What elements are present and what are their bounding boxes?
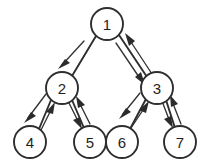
- node-6[interactable]: 6: [106, 126, 138, 158]
- node-3[interactable]: 3: [141, 72, 173, 104]
- node-2[interactable]: 2: [46, 72, 78, 104]
- arrow-1-to-2: [58, 41, 84, 69]
- edge-1-2: [72, 36, 96, 76]
- arrowhead-down-left: [24, 112, 36, 123]
- node-group: 1 2 3 4 5 6: [14, 8, 196, 158]
- node-5[interactable]: 5: [74, 126, 106, 158]
- tree-diagram: 1 2 3 4 5 6: [0, 0, 205, 167]
- arrowhead-down-left: [58, 59, 70, 69]
- node-2-label: 2: [58, 80, 66, 97]
- tree-diagram-canvas: 1 2 3 4 5 6: [0, 0, 205, 167]
- node-3-label: 3: [153, 80, 161, 97]
- node-7[interactable]: 7: [164, 126, 196, 158]
- node-6-label: 6: [118, 134, 126, 151]
- arrowhead-up-left: [125, 33, 135, 46]
- arrow-6-to-3: [131, 101, 149, 128]
- arrowhead-up-left: [76, 96, 85, 108]
- arrow-3-to-1: [125, 33, 152, 74]
- edge-3-6: [130, 99, 146, 129]
- node-7-label: 7: [176, 134, 184, 151]
- arrowhead-down-left: [119, 108, 131, 119]
- node-4-label: 4: [26, 134, 34, 151]
- arrow-1-to-3: [116, 43, 145, 85]
- node-5-label: 5: [86, 134, 94, 151]
- node-1[interactable]: 1: [91, 8, 123, 40]
- node-4[interactable]: 4: [14, 126, 46, 158]
- node-1-label: 1: [103, 16, 111, 33]
